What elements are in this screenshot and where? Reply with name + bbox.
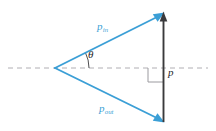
label-p-out: pout — [99, 103, 113, 114]
label-p: p — [168, 67, 174, 78]
vector-diagram-figure: pin pout θ p — [0, 0, 216, 131]
label-p-out-base: p — [99, 102, 105, 114]
right-angle-marker — [148, 68, 163, 82]
label-p-in-base: p — [97, 20, 103, 32]
label-p-in-subscript: in — [103, 26, 108, 33]
label-p-in: pin — [97, 21, 108, 32]
label-theta: θ — [88, 49, 93, 60]
label-p-out-subscript: out — [105, 108, 114, 115]
